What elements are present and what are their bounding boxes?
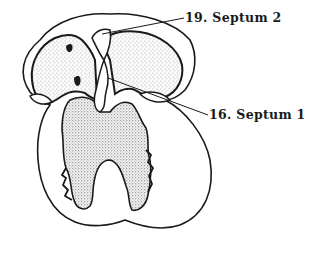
- label-septum-1-text: 16. Septum 1: [209, 107, 306, 122]
- label-septum-2-text: 19. Septum 2: [185, 10, 282, 25]
- label-septum-1: 16. Septum 1: [209, 107, 306, 122]
- label-septum-2: 19. Septum 2: [185, 10, 282, 25]
- heart-diagram: [0, 0, 312, 253]
